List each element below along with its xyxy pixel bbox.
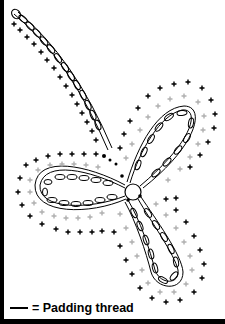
- padding-thread-line-icon: [10, 307, 28, 309]
- legend-label: = Padding thread: [32, 301, 134, 315]
- crochet-diagram: [0, 0, 225, 324]
- petal-top-right: [118, 80, 218, 189]
- stem-join: [102, 154, 142, 202]
- stem: [10, 8, 112, 150]
- center-ring: [125, 184, 141, 200]
- petal-bottom: [112, 196, 207, 305]
- legend: = Padding thread: [10, 301, 134, 315]
- petal-left: [16, 152, 127, 235]
